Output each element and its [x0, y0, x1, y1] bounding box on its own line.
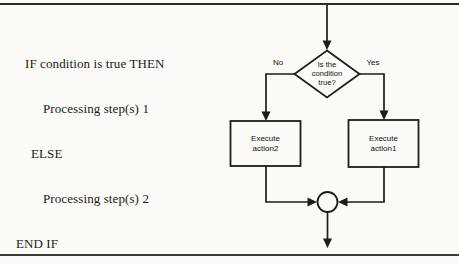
no-branch-label: No [273, 58, 284, 67]
arrowhead-into-decision [323, 41, 332, 51]
figure-page: IF condition is true THEN Processing ste… [0, 0, 459, 264]
decision-text-line2: condition [312, 69, 342, 78]
decision-text-line3: true? [318, 78, 335, 87]
action2-text-line1: Execute [251, 134, 280, 143]
decision-text-line1: Is the [318, 60, 337, 69]
arrowhead-into-action1-box [380, 111, 389, 121]
arrowhead-exit [323, 239, 332, 249]
action1-text-line2: action1 [371, 144, 397, 153]
junction-circle [318, 192, 338, 212]
arrowhead-into-junction-left [308, 198, 318, 207]
action1-text-line1: Execute [369, 134, 398, 143]
flowchart: Is the condition true? No Yes Execute ac… [0, 0, 459, 264]
action1-to-junction-line [346, 167, 385, 202]
arrowhead-into-action2-box [262, 112, 271, 122]
no-branch-line [266, 74, 295, 113]
yes-branch-label: Yes [366, 58, 379, 67]
yes-branch-line [360, 74, 385, 112]
arrowhead-into-junction-right [338, 198, 348, 207]
action2-to-junction-line [266, 167, 309, 203]
bottom-rule [0, 254, 459, 256]
action2-text-line2: action2 [253, 144, 279, 153]
